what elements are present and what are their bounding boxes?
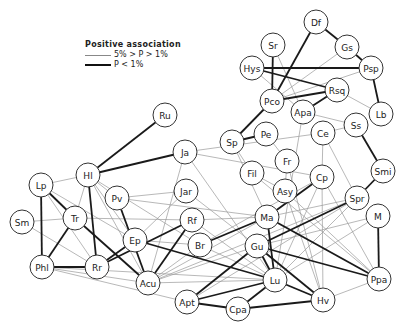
node-lb: Lb — [369, 102, 393, 126]
node-sp: Sp — [220, 130, 244, 154]
legend-thin-label: 5% > P > 1% — [114, 50, 168, 60]
association-network-diagram: DfGsSrHysPspRsqPcoApaLbRuSsCePeSpJaFrSmi… — [0, 0, 403, 328]
node-label: Ppa — [371, 275, 388, 285]
edge-cp-hv — [322, 177, 323, 300]
node-label: Smi — [375, 167, 392, 177]
node-label: Hl — [83, 171, 92, 181]
node-acu: Acu — [136, 271, 160, 295]
node-label: Lp — [36, 181, 47, 191]
node-label: Hv — [317, 296, 330, 306]
node-psp: Psp — [359, 56, 383, 80]
node-lu: Lu — [263, 268, 287, 292]
edge-cpa-hv — [238, 300, 323, 309]
node-apa: Apa — [291, 100, 315, 124]
node-label: Fil — [247, 169, 257, 179]
node-pv: Pv — [105, 186, 129, 210]
node-lp: Lp — [29, 173, 53, 197]
node-pe: Pe — [254, 122, 278, 146]
legend-title: Positive association — [85, 40, 181, 50]
node-phl: Phl — [30, 255, 54, 279]
node-label: Phl — [35, 263, 49, 273]
node-rr: Rr — [85, 255, 109, 279]
node-asy: Asy — [273, 179, 297, 203]
node-fr: Fr — [275, 149, 299, 173]
node-label: Gs — [341, 43, 353, 53]
node-rsq: Rsq — [325, 78, 349, 102]
node-label: Rsq — [329, 86, 346, 96]
node-label: Ma — [260, 213, 273, 223]
node-label: Df — [311, 18, 322, 28]
node-label: Ja — [180, 148, 189, 158]
legend-row-thick: P < 1% — [85, 60, 181, 70]
node-sm: Sm — [10, 210, 34, 234]
node-jar: Jar — [174, 179, 198, 203]
legend-row-thin: 5% > P > 1% — [85, 50, 181, 60]
node-ru: Ru — [153, 103, 177, 127]
node-hl: Hl — [76, 163, 100, 187]
node-gu: Gu — [245, 234, 269, 258]
node-label: Lb — [376, 110, 387, 120]
thick-line-swatch-icon — [85, 64, 111, 66]
node-label: Fr — [283, 157, 292, 167]
edge-ja-acu — [148, 152, 185, 283]
thin-line-swatch-icon — [85, 55, 111, 56]
node-hv: Hv — [311, 288, 335, 312]
nodes-group: DfGsSrHysPspRsqPcoApaLbRuSsCePeSpJaFrSmi… — [10, 10, 395, 321]
node-label: Rr — [92, 263, 102, 273]
node-fil: Fil — [240, 161, 264, 185]
node-sr: Sr — [261, 33, 285, 57]
node-spr: Spr — [345, 186, 369, 210]
node-label: Sr — [268, 41, 278, 51]
node-label: Cp — [316, 173, 328, 183]
node-tr: Tr — [63, 206, 87, 230]
node-label: Acu — [140, 279, 157, 289]
node-m: M — [366, 204, 390, 228]
node-ja: Ja — [173, 140, 197, 164]
node-label: Pco — [264, 97, 280, 107]
node-apt: Apt — [175, 290, 199, 314]
node-label: Spr — [349, 194, 364, 204]
node-smi: Smi — [371, 159, 395, 183]
node-label: Lu — [270, 276, 281, 286]
node-ss: Ss — [344, 113, 368, 137]
node-label: Br — [195, 241, 205, 251]
edge-spr-lu — [275, 198, 357, 280]
node-pco: Pco — [260, 89, 284, 113]
node-label: Apt — [179, 298, 195, 308]
node-label: M — [374, 212, 382, 222]
node-ppa: Ppa — [367, 267, 391, 291]
node-label: Sm — [15, 218, 29, 228]
node-br: Br — [188, 233, 212, 257]
node-label: Cpa — [229, 305, 247, 315]
node-label: Ss — [351, 121, 362, 131]
node-label: Pv — [112, 194, 123, 204]
node-gs: Gs — [335, 35, 359, 59]
node-ce: Ce — [311, 121, 335, 145]
legend: Positive association 5% > P > 1% P < 1% — [85, 40, 181, 70]
node-label: Jar — [179, 187, 192, 197]
node-label: Ep — [129, 236, 141, 246]
node-label: Apa — [294, 108, 311, 118]
edge-phl-apt — [42, 267, 187, 302]
node-cp: Cp — [310, 165, 334, 189]
node-label: Gu — [251, 242, 264, 252]
node-cpa: Cpa — [226, 297, 250, 321]
node-df: Df — [304, 10, 328, 34]
node-rf: Rf — [180, 208, 204, 232]
node-label: Tr — [70, 214, 79, 224]
node-label: Psp — [363, 64, 379, 74]
node-label: Sp — [226, 138, 238, 148]
node-label: Ru — [159, 111, 171, 121]
node-hys: Hys — [240, 56, 264, 80]
legend-thick-label: P < 1% — [114, 60, 143, 70]
node-label: Hys — [244, 64, 261, 74]
node-ep: Ep — [123, 228, 147, 252]
node-label: Ce — [317, 129, 329, 139]
node-label: Pe — [261, 130, 272, 140]
node-label: Asy — [277, 187, 294, 197]
node-label: Rf — [187, 216, 197, 226]
node-ma: Ma — [255, 205, 279, 229]
